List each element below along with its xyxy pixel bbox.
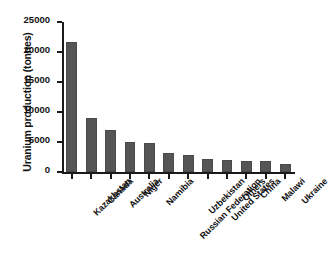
y-tick-label-0: 0 bbox=[45, 164, 50, 175]
bar-russian-federation bbox=[163, 153, 174, 172]
bar-niger bbox=[125, 142, 136, 172]
bar-ukraine bbox=[280, 164, 291, 172]
bar-kazakhstan bbox=[66, 42, 77, 172]
y-tick-15000: 15000 bbox=[57, 81, 62, 83]
bar-others bbox=[222, 160, 233, 172]
x-axis-label-namibia: Namibia bbox=[164, 176, 195, 207]
bar-namibia bbox=[144, 143, 155, 172]
y-tick-label-5000: 5000 bbox=[29, 134, 50, 145]
x-axis-label-niger: Niger bbox=[142, 176, 165, 199]
y-tick-label-15000: 15000 bbox=[24, 74, 50, 85]
bar-uzbekistan bbox=[183, 155, 194, 172]
y-tick-25000: 25000 bbox=[57, 21, 62, 23]
y-tick-label-25000: 25000 bbox=[24, 14, 50, 25]
bar-australia bbox=[105, 130, 116, 172]
y-tick-10000: 10000 bbox=[57, 111, 62, 113]
y-tick-label-20000: 20000 bbox=[24, 44, 50, 55]
plot-area: 0500010000150002000025000 bbox=[62, 22, 295, 172]
y-tick-0: 0 bbox=[57, 171, 62, 173]
y-tick-20000: 20000 bbox=[57, 51, 62, 53]
bar-united-states bbox=[202, 159, 213, 172]
bar-series bbox=[62, 22, 295, 172]
bar-china bbox=[241, 161, 252, 172]
y-axis-title: Uranium production (tonnes) bbox=[21, 17, 33, 187]
y-tick-label-10000: 10000 bbox=[24, 104, 50, 115]
y-tick-5000: 5000 bbox=[57, 141, 62, 143]
bar-canada bbox=[86, 118, 97, 172]
x-axis-line bbox=[62, 172, 295, 174]
x-axis-labels: KazakhstanCanadaAustraliaNigerNamibiaRus… bbox=[62, 176, 295, 260]
bar-malawi bbox=[260, 161, 271, 172]
